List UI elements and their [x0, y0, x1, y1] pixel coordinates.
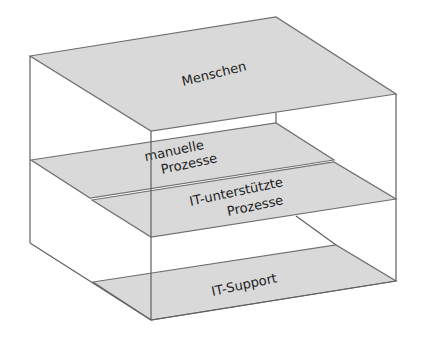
layer-it-support: IT-Support — [93, 245, 396, 320]
back-bottom-edge — [296, 216, 336, 245]
layer-menschen: Menschen — [30, 17, 396, 131]
layered-box-diagram: IT-Support IT-unterstützte Prozesse manu… — [0, 0, 422, 343]
